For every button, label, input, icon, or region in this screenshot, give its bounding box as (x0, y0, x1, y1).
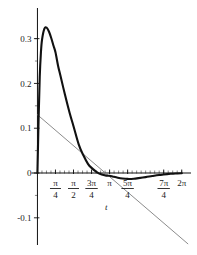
x-tick-label: 2π (177, 178, 187, 188)
x-tick-text: π (107, 178, 112, 188)
fraction-numerator: π (71, 178, 76, 188)
fraction-denominator: 4 (125, 190, 130, 200)
y-tick-label: -0.1 (17, 213, 31, 223)
y-tick-label: 0.3 (20, 34, 32, 44)
y-tick-label: 0.1 (20, 123, 31, 133)
chart-canvas: 0.30.20.10-0.1 π4π23π4π5π47π42π t (0, 0, 197, 255)
fraction-denominator: 4 (53, 190, 58, 200)
fraction-denominator: 2 (71, 190, 76, 200)
fraction-denominator: 4 (89, 190, 94, 200)
fraction-numerator: 7π (159, 178, 169, 188)
fraction-denominator: 4 (161, 190, 166, 200)
fraction-numerator: π (53, 178, 58, 188)
plot-figure: 0.30.20.10-0.1 π4π23π4π5π47π42π t (0, 0, 197, 255)
x-tick-label: π (107, 178, 112, 188)
y-tick-label: 0 (27, 168, 32, 178)
x-tick-text: 2π (177, 178, 187, 188)
fraction-numerator: 5π (123, 178, 133, 188)
y-tick-label: 0.2 (20, 79, 31, 89)
fraction-numerator: 3π (87, 178, 97, 188)
